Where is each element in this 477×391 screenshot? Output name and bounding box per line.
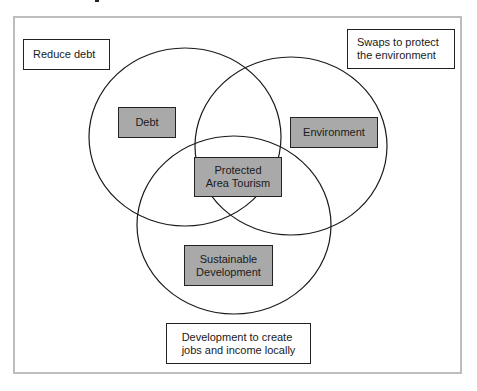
reduce-debt-label: Reduce debt [23,39,110,70]
protected-area-tourism-text: Protected Area Tourism [206,164,271,190]
reduce-debt-text: Reduce debt [33,48,95,61]
development-label: Development to create jobs and income lo… [166,323,311,364]
swaps-text: Swaps to protect the environment [357,36,439,62]
sustainable-development-text: Sustainable Development [196,253,261,279]
swaps-label: Swaps to protect the environment [347,29,455,69]
environment-text: Environment [303,126,365,139]
protected-area-tourism-box: Protected Area Tourism [194,157,282,197]
development-text: Development to create jobs and income lo… [182,331,296,357]
sustainable-development-box: Sustainable Development [184,245,273,286]
debt-box: Debt [118,107,176,138]
debt-text: Debt [135,116,158,129]
environment-box: Environment [290,117,378,148]
